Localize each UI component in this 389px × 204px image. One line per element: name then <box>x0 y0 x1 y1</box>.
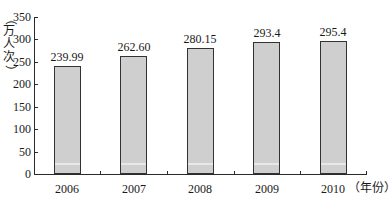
bar-2006 <box>54 66 81 174</box>
y-tick-mark <box>34 174 38 175</box>
x-tick-mark <box>300 171 301 174</box>
x-axis <box>34 174 367 175</box>
bar-value-label: 280.15 <box>170 33 230 45</box>
y-tick-label: 200 <box>5 78 31 90</box>
bar-2010 <box>320 41 347 174</box>
y-tick-mark <box>34 129 38 130</box>
x-category-label: 2006 <box>37 183 97 195</box>
y-tick-mark <box>34 107 38 108</box>
bar-value-label: 295.4 <box>303 26 363 38</box>
x-tick-mark <box>234 171 235 174</box>
x-axis-unit-label: （年份） <box>348 182 389 194</box>
y-tick-label: 0 <box>5 168 31 180</box>
y-tick-mark <box>34 17 38 18</box>
bar-value-label: 239.99 <box>37 51 97 63</box>
y-tick-label: 300 <box>5 33 31 45</box>
y-tick-mark <box>34 84 38 85</box>
x-category-label: 2007 <box>104 183 164 195</box>
bar-2008 <box>187 48 214 174</box>
x-category-label: 2008 <box>170 183 230 195</box>
x-tick-mark <box>366 171 367 174</box>
bar-2009 <box>253 42 280 174</box>
y-tick-label: 100 <box>5 123 31 135</box>
bar-value-label: 293.4 <box>237 27 297 39</box>
y-tick-label: 150 <box>5 101 31 113</box>
bar-value-label: 262.60 <box>104 41 164 53</box>
x-tick-mark <box>167 171 168 174</box>
y-tick-mark <box>34 152 38 153</box>
x-tick-mark <box>100 171 101 174</box>
bar-2007 <box>120 56 147 174</box>
bar-chart: （万人次） 050100150200250300350 239.99200626… <box>0 0 389 204</box>
y-tick-label: 50 <box>5 146 31 158</box>
y-tick-label: 350 <box>5 11 31 23</box>
y-tick-label: 250 <box>5 56 31 68</box>
x-category-label: 2009 <box>237 183 297 195</box>
y-tick-mark <box>34 39 38 40</box>
